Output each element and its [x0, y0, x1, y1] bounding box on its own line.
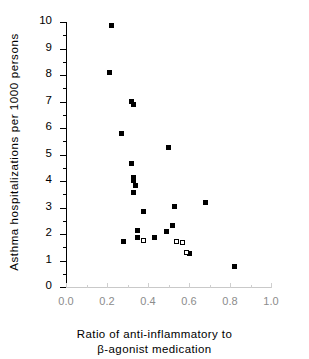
data-point-filled	[170, 223, 175, 228]
data-point-filled	[131, 102, 136, 107]
data-point-open	[141, 238, 146, 243]
data-point-open	[184, 250, 189, 255]
x-tick-label: 0.8	[215, 295, 245, 307]
y-tick-label: 0	[34, 279, 52, 291]
x-axis-title: Ratio of anti-inflammatory to β-agonist …	[0, 327, 309, 357]
data-point-filled	[203, 200, 208, 205]
data-point-filled	[135, 228, 140, 233]
x-tick-label: 0.4	[133, 295, 163, 307]
y-tick-label: 8	[34, 67, 52, 79]
scatter-chart-figure: Asthma hospitalizations per 1000 persons…	[0, 0, 309, 359]
data-point-filled	[141, 209, 146, 214]
y-tick-label: 9	[34, 41, 52, 53]
x-tick-major	[271, 283, 272, 288]
y-tick-label: 6	[34, 120, 52, 132]
y-axis-title: Asthma hospitalizations per 1000 persons	[8, 7, 20, 297]
y-tick-label: 3	[34, 200, 52, 212]
data-point-open	[174, 239, 179, 244]
x-tick-label: 0.6	[174, 295, 204, 307]
y-tick-label: 7	[34, 94, 52, 106]
x-axis-title-line1: Ratio of anti-inflammatory to	[77, 328, 232, 340]
data-point-filled	[164, 229, 169, 234]
x-tick-label: 0.0	[51, 295, 81, 307]
y-tick-label: 4	[34, 173, 52, 185]
y-tick-label: 1	[34, 253, 52, 265]
data-point-filled	[133, 183, 138, 188]
y-tick-label: 2	[34, 226, 52, 238]
data-point-filled	[119, 131, 124, 136]
x-axis-title-line2: β-agonist medication	[0, 342, 309, 357]
data-point-filled	[232, 264, 237, 269]
y-tick-label: 10	[34, 14, 52, 26]
data-point-open	[180, 240, 185, 245]
y-tick-label: 5	[34, 147, 52, 159]
plot-area	[66, 22, 271, 287]
data-point-filled	[152, 235, 157, 240]
data-point-filled	[166, 145, 171, 150]
data-point-filled	[109, 23, 114, 28]
data-point-filled	[135, 235, 140, 240]
x-tick-label: 0.2	[92, 295, 122, 307]
data-point-filled	[172, 204, 177, 209]
data-point-filled	[129, 161, 134, 166]
data-point-filled	[131, 190, 136, 195]
data-point-filled	[121, 239, 126, 244]
x-tick-label: 1.0	[256, 295, 286, 307]
data-point-filled	[107, 70, 112, 75]
